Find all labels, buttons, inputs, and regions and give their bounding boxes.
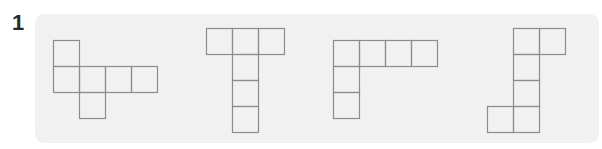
net-square <box>54 67 80 93</box>
net-square <box>540 29 566 55</box>
net-square <box>233 107 259 133</box>
net-square <box>207 29 233 55</box>
net-square <box>259 29 285 55</box>
net-square <box>488 107 514 133</box>
net-square <box>412 41 438 67</box>
net-square <box>106 67 132 93</box>
net-square <box>233 81 259 107</box>
net-square <box>54 41 80 67</box>
net-square <box>514 55 540 81</box>
net-square <box>514 29 540 55</box>
net-figure-4 <box>488 29 566 133</box>
net-square <box>80 67 106 93</box>
net-square <box>386 41 412 67</box>
net-figure-2 <box>207 29 285 133</box>
net-square <box>132 67 158 93</box>
net-square <box>334 93 360 119</box>
net-square <box>233 55 259 81</box>
net-square <box>80 93 106 119</box>
net-square <box>360 41 386 67</box>
net-square <box>233 29 259 55</box>
net-figure-3 <box>334 41 438 119</box>
net-square <box>334 67 360 93</box>
net-square <box>514 107 540 133</box>
net-figure-1 <box>54 41 158 119</box>
net-square <box>334 41 360 67</box>
cube-nets-diagram <box>0 0 602 149</box>
net-square <box>514 81 540 107</box>
